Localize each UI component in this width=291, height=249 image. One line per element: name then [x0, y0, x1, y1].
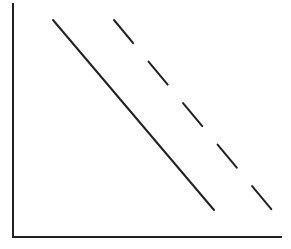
dashed-diagonal-line [114, 20, 272, 210]
solid-diagonal-line [53, 20, 214, 210]
diagram-canvas [0, 0, 291, 249]
plot-svg [0, 0, 291, 249]
